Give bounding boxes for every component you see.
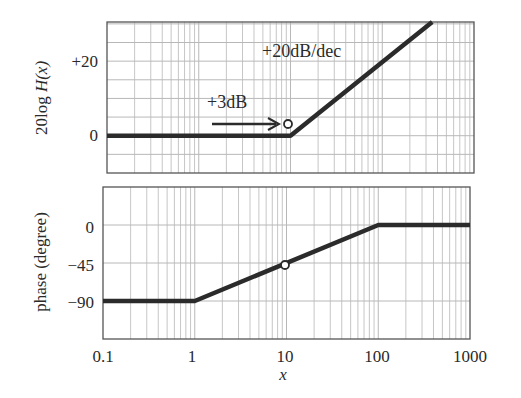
ytick-plus20: +20 [71, 52, 98, 71]
xtick-1000: 1000 [453, 347, 487, 366]
x-axis-label: x [278, 365, 287, 384]
xtick-10: 10 [277, 347, 294, 366]
ytick-0: 0 [90, 126, 99, 145]
magnitude-ylabel: 20log H(x) [32, 61, 51, 135]
phase-ylabel: phase (degree) [31, 212, 50, 312]
xtick-1: 1 [188, 347, 197, 366]
minus45-marker [281, 261, 289, 269]
ytick-minus90: −90 [67, 293, 94, 312]
magnitude-plot: +20dB/dec +3dB +20 0 20log H(x) [32, 22, 474, 173]
ytick-0deg: 0 [86, 218, 95, 237]
xtick-0.1: 0.1 [92, 347, 113, 366]
plus3db-marker [284, 120, 292, 128]
plus3db-arrow [212, 118, 279, 130]
xtick-100: 100 [364, 347, 390, 366]
bode-figure: +20dB/dec +3dB +20 0 20log H(x) 0 −45 −9… [0, 0, 521, 398]
ytick-minus45: −45 [67, 256, 94, 275]
slope-annotation: +20dB/dec [262, 41, 341, 61]
plus3db-annotation: +3dB [207, 92, 247, 112]
phase-plot: 0 −45 −90 phase (degree) 0.1 1 10 100 10… [31, 187, 487, 384]
